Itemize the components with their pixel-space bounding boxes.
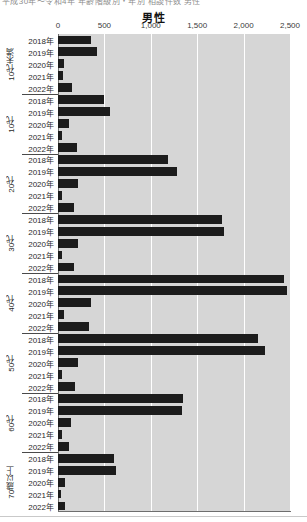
bar [58, 502, 65, 511]
clipped-header-strip: 平成30年〜令和4年 年齢階級別・年別 相談件数 男性 [0, 0, 307, 9]
clipped-header-text: 平成30年〜令和4年 年齢階級別・年別 相談件数 男性 [2, 0, 201, 6]
bar [58, 263, 74, 272]
bar [58, 370, 62, 379]
gridline [290, 34, 291, 512]
year-axis-label: 2021年 [20, 429, 54, 440]
bar [58, 298, 91, 307]
year-axis-label: 2019年 [20, 465, 54, 476]
table-row [58, 381, 290, 393]
year-axis-label: 2020年 [20, 238, 54, 249]
group-separator [22, 213, 58, 214]
table-row [58, 369, 290, 381]
year-axis-label: 2022年 [20, 501, 54, 512]
year-axis-label: 2022年 [20, 262, 54, 273]
table-row [58, 165, 290, 177]
bar [58, 143, 77, 152]
year-axis-label: 2021年 [20, 370, 54, 381]
bar [58, 131, 62, 140]
year-axis-label: 2018年 [20, 274, 54, 285]
table-row [58, 34, 290, 46]
bar [58, 239, 78, 248]
year-axis-label: 2020年 [20, 477, 54, 488]
x-tick-label: 500 [98, 21, 111, 30]
bar [58, 119, 69, 128]
year-axis-label: 2019年 [20, 405, 54, 416]
table-row [58, 261, 290, 273]
year-axis-label: 2022年 [20, 143, 54, 154]
bar [58, 191, 62, 200]
table-row [58, 416, 290, 428]
bar [58, 394, 183, 403]
year-axis-label: 2018年 [20, 214, 54, 225]
table-row [58, 58, 290, 70]
bar [58, 275, 284, 284]
table-row [58, 428, 290, 440]
bottom-rule [0, 516, 307, 517]
table-row [58, 476, 290, 488]
group-separator [22, 452, 58, 453]
year-axis-label: 2020年 [20, 298, 54, 309]
year-axis-label: 2021年 [20, 71, 54, 82]
bar [58, 442, 69, 451]
x-tick-label: 2,500 [280, 21, 300, 30]
year-axis-label: 2019年 [20, 166, 54, 177]
table-row [58, 213, 290, 225]
table-row [58, 189, 290, 201]
table-row [58, 46, 290, 58]
table-row [58, 321, 290, 333]
year-axis-label: 2019年 [20, 226, 54, 237]
bar [58, 322, 89, 331]
bar [58, 36, 91, 45]
table-row [58, 142, 290, 154]
table-row [58, 345, 290, 357]
year-axis-label: 2019年 [20, 107, 54, 118]
x-tick-label: 0 [56, 21, 60, 30]
group-axis-label: 30代 [0, 213, 22, 273]
table-row [58, 273, 290, 285]
bar [58, 179, 78, 188]
group-axis-label: 10代未満 [0, 34, 22, 94]
year-axis-label: 2020年 [20, 178, 54, 189]
year-axis-label: 2021年 [20, 310, 54, 321]
table-row [58, 393, 290, 405]
year-axis-label: 2018年 [20, 35, 54, 46]
year-axis-label: 2021年 [20, 131, 54, 142]
group-axis-label: 10代 [0, 94, 22, 154]
bar [58, 83, 72, 92]
year-axis-label: 2022年 [20, 441, 54, 452]
table-row [58, 237, 290, 249]
bar [58, 490, 61, 499]
table-row [58, 70, 290, 82]
group-axis-label: 20代 [0, 154, 22, 214]
table-row [58, 177, 290, 189]
group-axis-label: 40代 [0, 273, 22, 333]
table-row [58, 249, 290, 261]
year-axis-label: 2018年 [20, 393, 54, 404]
bar [58, 310, 64, 319]
table-row [58, 464, 290, 476]
year-axis-label: 2020年 [20, 119, 54, 130]
year-axis-label: 2021年 [20, 489, 54, 500]
year-axis-label: 2019年 [20, 47, 54, 58]
table-row [58, 500, 290, 512]
year-axis-label: 2022年 [20, 322, 54, 333]
group-axis-label: 70歳以上 [0, 452, 22, 512]
year-axis-label: 2020年 [20, 59, 54, 70]
table-row [58, 82, 290, 94]
table-row [58, 297, 290, 309]
year-axis-label: 2020年 [20, 417, 54, 428]
year-axis-label: 2022年 [20, 83, 54, 94]
bar [58, 47, 97, 56]
bar [58, 418, 71, 427]
year-axis-label: 2021年 [20, 190, 54, 201]
chart-page: 平成30年〜令和4年 年齢階級別・年別 相談件数 男性 男性 05001,000… [0, 0, 307, 522]
table-row [58, 130, 290, 142]
table-row [58, 357, 290, 369]
table-row [58, 488, 290, 500]
year-axis-label: 2020年 [20, 358, 54, 369]
bar [58, 334, 258, 343]
bar [58, 454, 114, 463]
bar [58, 215, 222, 224]
bar [58, 286, 287, 295]
bar [58, 95, 104, 104]
